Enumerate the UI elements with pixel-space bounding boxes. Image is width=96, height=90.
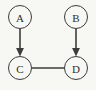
node-c[interactable]: C	[9, 57, 32, 80]
edge-b-to-d-arrowhead-icon	[72, 48, 80, 57]
node-d-label: D	[72, 63, 80, 75]
node-a-label: A	[16, 12, 24, 24]
graph-diagram: A B C D	[0, 0, 96, 90]
node-d[interactable]: D	[65, 57, 88, 80]
edge-a-to-c-arrowhead-icon	[16, 48, 24, 57]
edge-b-to-d	[72, 29, 80, 57]
node-b-label: B	[72, 12, 79, 24]
node-a[interactable]: A	[9, 6, 32, 29]
node-b[interactable]: B	[65, 6, 88, 29]
edge-a-to-c	[16, 29, 24, 57]
node-c-label: C	[16, 63, 23, 75]
diagram-canvas: A B C D	[0, 0, 96, 90]
